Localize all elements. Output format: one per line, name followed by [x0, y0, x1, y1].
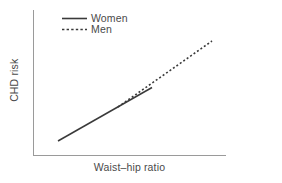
x-axis-label: Waist–hip ratio — [33, 162, 226, 173]
legend-label-women: Women — [91, 13, 128, 24]
legend-label-men: Men — [91, 24, 112, 35]
series-line-women — [58, 88, 152, 142]
chart-plot-area — [0, 0, 282, 183]
series-line-men — [118, 41, 212, 107]
chart-figure: Women Men Waist–hip ratio CHD risk — [0, 0, 282, 183]
y-axis-label: CHD risk — [9, 50, 20, 110]
